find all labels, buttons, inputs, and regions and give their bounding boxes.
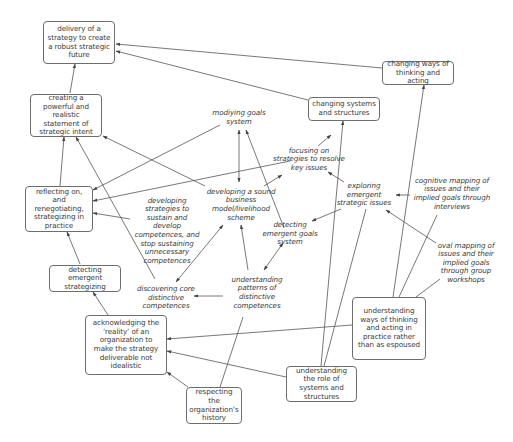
edge-n15-n8 [241, 225, 248, 270]
edge-n8-n3 [103, 136, 205, 186]
node-modifying-goals-system[interactable]: modiying goals system [208, 108, 270, 128]
edge-n5-n7 [93, 125, 220, 190]
node-changing-ways-of-thinking[interactable]: changing ways of thinking and acting [382, 61, 454, 85]
edge-n20-n18 [167, 372, 188, 387]
node-statement-of-strategic-intent[interactable]: creating a powerful and realistic statem… [30, 94, 102, 137]
node-discovering-core-competences[interactable]: discovering core distinctive competences [134, 283, 198, 313]
node-detecting-emergent-strategizing[interactable]: detecting emergent strategizing [49, 265, 121, 292]
edge-n19-n18 [167, 351, 286, 377]
node-understanding-patterns-competences[interactable]: understanding patterns of distinctive co… [224, 270, 290, 316]
node-exploring-emergent-strategic-issues[interactable]: exploring emergent strategic issues [330, 185, 398, 205]
node-developing-business-model[interactable]: developing a sound business model/liveli… [203, 185, 279, 225]
cognitive-map-canvas: delivery of a strategy to create a robus… [0, 0, 513, 442]
edge-n18-n14 [93, 292, 108, 315]
node-acknowledging-reality-of-organization[interactable]: acknowledging the ‘reality’ of an organi… [85, 315, 167, 375]
edge-n11-n7 [93, 213, 130, 219]
edge-n20-n15 [220, 317, 243, 387]
node-delivery-robust-strategic-future[interactable]: delivery of a strategy to create a robus… [43, 21, 115, 64]
node-detecting-emergent-goals-system[interactable]: detecting emergent goals system [254, 224, 326, 244]
edge-n9-n12 [312, 209, 341, 221]
edge-n2-n1 [116, 44, 382, 68]
node-focusing-on-strategies[interactable]: focusing on strategies to resolve key is… [270, 145, 348, 174]
edge-n12-n15 [264, 243, 283, 270]
edge-n7-n3 [60, 137, 64, 186]
node-respecting-organizations-history[interactable]: respecting the organization’s history [186, 387, 242, 424]
node-oval-mapping-workshops[interactable]: oval mapping of issues and their implied… [428, 240, 504, 286]
node-reflecting-renegotiating-strategizing[interactable]: reflecting on, and renegotiating, strate… [25, 186, 93, 232]
node-developing-strategies-competences[interactable]: developing strategies to sustain and dev… [131, 195, 203, 267]
node-understanding-role-of-systems[interactable]: understanding the role of systems and st… [286, 366, 357, 402]
node-cognitive-mapping-interviews[interactable]: cognitive mapping of issues and their im… [410, 174, 494, 214]
edge-n3-n1 [70, 64, 75, 93]
node-understanding-ways-in-practice[interactable]: understanding ways of thinking and actin… [352, 297, 426, 360]
edge-n14-n7 [67, 232, 80, 264]
edge-n13-n9 [386, 210, 436, 243]
node-changing-systems-and-structures[interactable]: changing systems and structures [308, 97, 380, 121]
